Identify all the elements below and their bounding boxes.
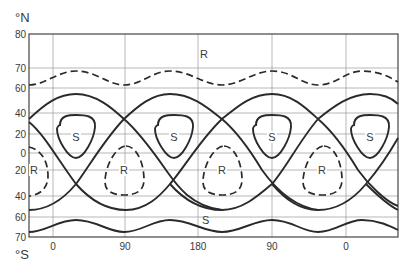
s-loops-group [57,115,389,158]
plot-frame [29,34,398,237]
r-region-label-left: R [30,164,38,176]
y-tick-label: 60 [15,212,27,223]
x-tick-label: 0 [50,241,56,252]
south-unit-label: °S [15,247,29,262]
southern-solid-boundary [29,220,398,232]
x-tick-label: 90 [266,241,278,252]
r-region-label: R [120,164,128,176]
y-tick-label: 80 [15,29,27,40]
south-s-region-label: S [202,214,209,226]
region-labels: SSSSRRRRRS [29,48,375,226]
x-axis-tick-labels: 090180900 [50,241,349,252]
y-tick-label: 70 [15,232,27,243]
lower-arch-curves [29,119,398,210]
s-region-label: S [72,131,79,143]
s-region-label: S [366,131,373,143]
x-tick-label: 0 [343,241,349,252]
north-r-region-label: R [200,48,208,60]
sun-illumination-diagram: 8070604020020406070 090180900 °N °S SSSS… [0,0,409,266]
s-region-label: S [170,131,177,143]
northern-dashed-boundary [29,71,398,85]
s-region-label: S [268,131,275,143]
y-tick-label: 0 [20,148,26,159]
y-tick-label: 70 [15,63,27,74]
x-tick-label: 90 [119,241,131,252]
y-tick-label: 40 [15,191,27,202]
north-unit-label: °N [15,10,30,25]
y-tick-label: 20 [15,129,27,140]
y-tick-label: 40 [15,108,27,119]
r-region-label: R [318,164,326,176]
y-tick-label: 20 [15,165,27,176]
x-tick-label: 180 [190,241,207,252]
y-tick-label: 60 [15,83,27,94]
r-region-label: R [218,164,226,176]
y-axis-tick-labels: 8070604020020406070 [15,29,27,243]
diagram-stage: 8070604020020406070 090180900 °N °S SSSS… [0,0,409,266]
